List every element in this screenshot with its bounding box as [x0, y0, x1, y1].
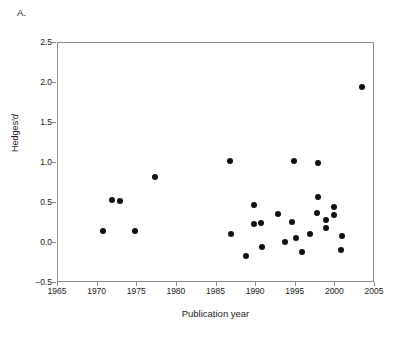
y-tick-mark: [52, 122, 56, 123]
y-axis-title: Hedges'd: [10, 88, 20, 178]
x-tick-label: 2005: [356, 286, 392, 296]
x-tick-label: 1965: [39, 286, 75, 296]
x-axis-tick-labels: 196519701975198019851990199520002005: [0, 286, 399, 300]
x-tick-label: 2000: [316, 286, 352, 296]
y-tick-label: 0.0: [26, 238, 52, 247]
x-tick-label: 1995: [277, 286, 313, 296]
x-tick-label: 1975: [118, 286, 154, 296]
y-tick-mark: [52, 162, 56, 163]
y-tick-label: 0.5: [26, 198, 52, 207]
y-axis-title-text: Hedges': [10, 119, 20, 152]
y-tick-label: 2.5: [26, 38, 52, 47]
panel-label: A.: [17, 7, 26, 18]
x-tick-label: 1985: [198, 286, 234, 296]
y-tick-mark: [52, 42, 56, 43]
x-tick-label: 1990: [237, 286, 273, 296]
y-tick-mark: [52, 242, 56, 243]
y-tick-label: 1.5: [26, 118, 52, 127]
x-tick-label: 1980: [158, 286, 194, 296]
x-tick-label: 1970: [79, 286, 115, 296]
scatter-plot-figure: A. −0.50.00.51.01.52.02.5 Hedges'd 19651…: [0, 0, 399, 341]
y-axis-tick-labels: −0.50.00.51.01.52.02.5: [20, 42, 52, 282]
y-tick-label: 1.0: [26, 158, 52, 167]
y-tick-mark: [52, 202, 56, 203]
y-tick-mark: [52, 282, 56, 283]
x-axis-title: Publication year: [57, 308, 374, 319]
plot-area-frame: [57, 42, 374, 282]
y-axis-title-italic: d: [10, 114, 20, 119]
y-tick-mark: [52, 82, 56, 83]
y-tick-label: 2.0: [26, 78, 52, 87]
